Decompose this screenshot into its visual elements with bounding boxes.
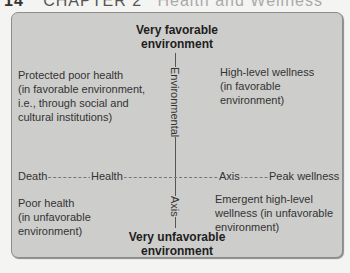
health-grid-diagram: Very favorable environment Environmental…	[11, 12, 343, 258]
quadrant-text: (in favorable environment)	[220, 79, 342, 107]
environmental-axis-label-lower: Axis	[169, 196, 181, 217]
peak-wellness-label: Peak wellness	[268, 170, 340, 182]
environmental-axis-label: Environmental	[169, 67, 181, 137]
quadrant-text: cultural institutions)	[18, 110, 145, 124]
quadrant-text: High-level wellness	[220, 65, 342, 79]
quadrant-text: (in unfavorable	[18, 210, 91, 224]
top-pole-line2: environment	[12, 37, 342, 51]
quadrant-top-right: High-level wellness (in favorable enviro…	[220, 65, 342, 107]
chapter-title: Health and Wellness	[158, 0, 323, 9]
quadrant-top-left: Protected poor health (in favorable envi…	[18, 68, 145, 124]
bottom-pole-line2: environment	[12, 244, 342, 258]
quadrant-text: Emergent high-level	[215, 192, 333, 206]
chapter-label: CHAPTER 2	[43, 0, 142, 9]
bottom-pole-label: Very unfavorable environment	[12, 230, 342, 258]
page-header: 14 CHAPTER 2 Health and Wellness	[4, 0, 323, 10]
top-pole-line1: Very favorable	[12, 23, 342, 37]
quadrant-text: Poor health	[18, 196, 91, 210]
page-number: 14	[4, 0, 24, 9]
quadrant-text: (in favorable environment,	[18, 82, 145, 96]
top-pole-label: Very favorable environment	[12, 23, 342, 51]
bottom-pole-line1: Very unfavorable	[12, 230, 342, 244]
death-label: Death	[17, 170, 48, 182]
health-axis: Death Health Axis Peak wellness	[12, 170, 342, 184]
quadrant-text: wellness (in unfavorable	[215, 206, 333, 220]
axis-label: Axis	[218, 170, 241, 182]
quadrant-bottom-right: Emergent high-level wellness (in unfavor…	[215, 192, 333, 234]
health-label: Health	[90, 170, 124, 182]
quadrant-text: Protected poor health	[18, 68, 145, 82]
quadrant-text: i.e., through social and	[18, 96, 145, 110]
